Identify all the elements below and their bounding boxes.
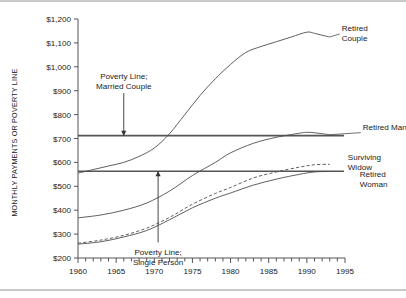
married-couple-annotation-label: Poverty Line; xyxy=(100,72,147,81)
series-leader-line xyxy=(330,133,361,135)
series-label-retired-woman: Woman xyxy=(360,180,388,189)
x-axis-tick-label: 1985 xyxy=(260,267,279,276)
y-axis-tick-label: $600 xyxy=(53,158,72,167)
married-couple-annotation-label: Married Couple xyxy=(96,82,152,91)
single-person-annotation-label: Poverty Line; xyxy=(134,248,181,257)
series-label-retired-couple: Retired xyxy=(342,24,368,33)
chart-figure: $200$300$400$500$600$700$800$900$1,000$1… xyxy=(0,0,406,298)
series-leader-line xyxy=(330,34,340,37)
series-line-retired-woman xyxy=(78,171,330,244)
single-person-annotation-label: Single Person xyxy=(133,258,183,267)
y-axis-tick-label: $800 xyxy=(53,111,72,120)
series-label-retired-man: Retired Man xyxy=(363,123,406,132)
x-axis-tick-label: 1960 xyxy=(69,267,88,276)
series-label-retired-couple: Couple xyxy=(342,34,368,43)
y-axis-tick-label: $300 xyxy=(53,230,72,239)
series-line-retired-man xyxy=(78,132,330,218)
y-axis-tick-label: $700 xyxy=(53,135,72,144)
poverty-line-chart: $200$300$400$500$600$700$800$900$1,000$1… xyxy=(0,0,406,298)
y-axis-tick-label: $1,200 xyxy=(46,15,71,24)
series-line-retired-couple xyxy=(78,32,330,173)
y-axis-tick-label: $200 xyxy=(53,254,72,263)
x-axis-tick-label: 1965 xyxy=(107,267,126,276)
x-axis-tick-label: 1995 xyxy=(336,267,355,276)
y-axis-tick-label: $400 xyxy=(53,206,72,215)
y-axis-tick-label: $500 xyxy=(53,182,72,191)
y-axis-title: MONTHLY PAYMENTS OR POVERTY LINE xyxy=(10,68,19,216)
series-label-retired-woman: Retired xyxy=(360,170,386,179)
y-axis-tick-label: $1,000 xyxy=(46,63,71,72)
x-axis-tick-label: 1980 xyxy=(222,267,241,276)
x-axis-tick-label: 1975 xyxy=(183,267,202,276)
y-axis-tick-label: $1,100 xyxy=(46,39,71,48)
x-axis-tick-label: 1990 xyxy=(298,267,317,276)
y-axis-tick-label: $900 xyxy=(53,87,72,96)
series-label-surviving-widow: Surviving xyxy=(348,153,381,162)
x-axis-tick-label: 1970 xyxy=(145,267,164,276)
